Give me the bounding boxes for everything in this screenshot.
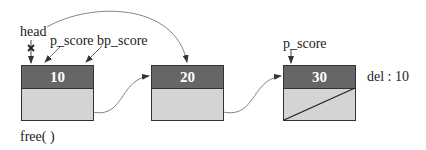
node-3-value: 30 [284, 66, 355, 89]
node2-next-arrow [219, 76, 281, 113]
node-2-value: 20 [152, 66, 223, 89]
p-score-node3-label: p_score [283, 37, 327, 51]
del-label: del : 10 [367, 70, 409, 84]
node-1-value: 10 [22, 66, 93, 89]
head-label: head [20, 25, 46, 39]
list-node-3: 30 [283, 65, 356, 121]
bp-score-label: bp_score [97, 34, 148, 48]
p-score-arrow [45, 46, 61, 62]
list-node-1: 10 [21, 65, 94, 121]
free-label: free( ) [20, 130, 55, 144]
bp-score-arrow [86, 46, 102, 62]
p-score-label: p_score [50, 34, 94, 48]
node1-next-arrow [88, 76, 149, 113]
null-pointer-slash-icon [283, 87, 356, 121]
list-node-2: 20 [151, 65, 224, 121]
